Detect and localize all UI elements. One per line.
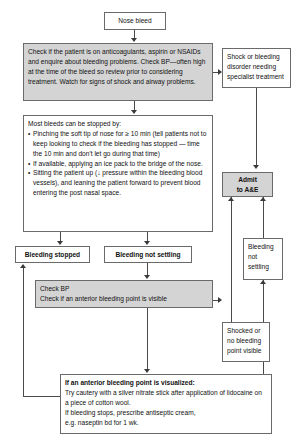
connector-shockedpoint-to-admit [231,197,232,329]
node-check-bp-line2: Check if an anterior bleeding point is v… [40,294,208,304]
node-shocked-no-point: Shocked or no bleeding point visible [222,322,270,362]
node-anterior-visualized-line3: e.g. naseptin bd for 1 wk. [65,418,267,428]
node-anterior-visualized: If an anterior bleeding point is visuali… [60,374,272,434]
connector-shock-to-admit [256,88,257,166]
node-anterior-visualized-heading: If an anterior bleeding point is visuali… [65,378,267,388]
connector-anterior-to-stopped-vertical [23,268,24,396]
connector-anterior-to-stopped-horizontal [23,396,60,397]
list-item: If available, applying an ice pack to th… [28,159,208,169]
arrowhead-to-notsettlingright [260,280,266,284]
arrowhead-to-admit-from-notsettling [260,197,266,201]
node-anterior-visualized-line1: Try cautery with a silver nitrate stick … [65,388,267,408]
node-check-patient-text: Check if the patient is on anticoagulant… [28,47,208,87]
node-admit-to-ae-line1: Admit [227,175,268,185]
arrowhead-to-bleeding-stopped-feedback [20,264,26,268]
node-most-bleeds-bullet-list: Pinching the soft tip of nose for ≥ 10 m… [28,129,208,198]
node-most-bleeds-heading: Most bleeds can be stopped by: [28,119,208,129]
node-bleeding-not-settling: Bleeding not settling [104,246,192,263]
arrowhead-to-most-bleeds [131,110,137,114]
node-shocked-no-point-line3: point visible [227,346,265,356]
arrowhead-to-check-patient [131,38,137,42]
node-check-bp-line1: Check BP [40,284,208,294]
arrowhead-to-anterior-visualized [144,369,150,373]
node-most-bleeds: Most bleeds can be stopped by: Pinching … [23,115,213,232]
node-anterior-visualized-line2: If bleeding stops, prescribe antiseptic … [65,408,267,418]
node-bleeding-not-settling-right-line1: Bleeding [248,242,278,252]
node-bleeding-not-settling-right: Bleeding not settling [243,238,283,280]
arrowhead-to-bleeding-not-settling [144,241,150,245]
arrowhead-to-admit-from-shock [253,165,259,169]
node-nose-bleed-label: Nose bleed [109,16,161,26]
list-item: Sitting the patient up (↓ pressure withi… [28,168,208,198]
list-item: Pinching the soft tip of nose for ≥ 10 m… [28,129,208,159]
node-nose-bleed: Nose bleed [104,12,166,30]
arrowhead-to-check-bp [144,275,150,279]
nosebleed-flowchart: Nose bleed Check if the patient is on an… [0,0,295,448]
node-shocked-no-point-line1: Shocked or [227,326,265,336]
arrowhead-to-bleeding-stopped [57,241,63,245]
node-shock-disorder-text: Shock or bleeding disorder needing speci… [227,52,286,82]
node-shocked-no-point-line2: no bleeding [227,336,265,346]
arrowhead-to-shocked-no-point [218,297,222,303]
node-bleeding-not-settling-right-line2: not [248,252,278,262]
node-admit-to-ae-line2: to A&E [227,185,268,195]
node-admit-to-ae: Admit to A&E [222,172,273,197]
node-bleeding-stopped-label: Bleeding stopped [20,250,85,260]
connector-checkbp-to-anterior [147,308,148,370]
node-shock-disorder: Shock or bleeding disorder needing speci… [222,48,291,88]
node-check-patient: Check if the patient is on anticoagulant… [23,43,213,101]
connector-notsettlingright-to-admit [263,197,264,238]
node-bleeding-not-settling-right-line3: settling [248,262,278,272]
node-bleeding-not-settling-label: Bleeding not settling [109,250,187,260]
node-check-bp: Check BP Check if an anterior bleeding p… [35,280,213,308]
node-bleeding-stopped: Bleeding stopped [15,246,90,263]
arrowhead-to-admit-from-shockedpoint [228,197,234,201]
